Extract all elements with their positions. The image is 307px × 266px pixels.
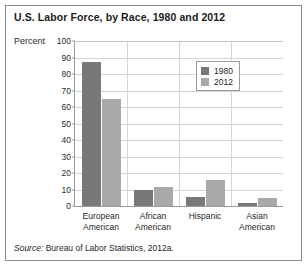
y-axis-tick-label: 30 [62, 152, 71, 162]
legend-label-1980: 1980 [214, 66, 233, 76]
plot-wrapper: 1009080706050403020100EuropeanAmericanAf… [74, 41, 283, 207]
x-axis-category-label: AfricanAmerican [135, 211, 171, 232]
y-axis-tick-label: 100 [57, 36, 71, 46]
y-axis-tick-label: 90 [62, 53, 71, 63]
category-label-line1: African [140, 211, 166, 221]
y-axis-tick-label: 0 [66, 201, 71, 211]
category-label-line2: American [135, 222, 171, 233]
bar-1980-2 [186, 197, 205, 206]
y-axis-tick-label: 40 [62, 135, 71, 145]
y-axis-tick-label: 20 [62, 168, 71, 178]
bar-group: AfricanAmerican [127, 41, 179, 206]
category-label-line1: Asian [246, 211, 267, 221]
legend-label-2012: 2012 [214, 77, 233, 87]
x-axis-category-label: Hispanic [189, 211, 222, 222]
legend-swatch-icon-2012 [201, 78, 209, 86]
legend-item-2012: 2012 [201, 76, 233, 87]
category-label-line2: American [239, 222, 275, 233]
source-note: Source: Bureau of Labor Statistics, 2012… [14, 243, 174, 253]
bar-1980-0 [82, 62, 101, 206]
source-keyword: Source: [14, 243, 43, 253]
bar-group: EuropeanAmerican [75, 41, 127, 206]
chart-legend: 1980 2012 [196, 61, 240, 91]
category-label-line1: European [83, 211, 120, 221]
figure-container: U.S. Labor Force, by Race, 1980 and 2012… [0, 0, 307, 266]
plot-area: 1009080706050403020100EuropeanAmericanAf… [74, 41, 283, 207]
chart-title: U.S. Labor Force, by Race, 1980 and 2012 [14, 11, 225, 23]
category-label-line1: Hispanic [189, 211, 222, 221]
source-text: Bureau of Labor Statistics, 2012a. [46, 243, 174, 253]
bar-1980-3 [238, 203, 257, 206]
y-axis-tick-label: 50 [62, 119, 71, 129]
y-axis-tick-label: 60 [62, 102, 71, 112]
legend-swatch-icon-1980 [201, 67, 209, 75]
y-axis-label: Percent [14, 36, 45, 46]
bar-2012-3 [258, 198, 277, 206]
y-axis-tick-label: 10 [62, 185, 71, 195]
legend-item-1980: 1980 [201, 65, 233, 76]
bar-2012-2 [206, 180, 225, 206]
category-label-line2: American [83, 222, 120, 233]
y-axis-tick-label: 80 [62, 69, 71, 79]
bar-2012-1 [154, 187, 173, 206]
x-axis-category-label: AsianAmerican [239, 211, 275, 232]
x-axis-category-label: EuropeanAmerican [83, 211, 120, 232]
bar-1980-1 [134, 190, 153, 207]
bar-2012-0 [102, 99, 121, 206]
y-axis-tick-label: 70 [62, 86, 71, 96]
